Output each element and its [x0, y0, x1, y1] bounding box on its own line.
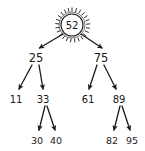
edge-52-25 — [40, 34, 64, 48]
edge-89-95 — [122, 106, 130, 130]
binary-search-tree-diagram: 52 25 75 11 33 61 89 30 40 82 95 — [0, 0, 145, 151]
node-label-11: 11 — [10, 94, 23, 105]
edge-33-30 — [39, 106, 45, 130]
edge-33-40 — [47, 106, 55, 130]
edge-25-33 — [39, 65, 43, 89]
node-label-40: 40 — [50, 135, 62, 146]
edge-75-61 — [89, 65, 97, 89]
node-label-89: 89 — [113, 94, 126, 105]
node-label-30: 30 — [31, 135, 43, 146]
edge-52-75 — [81, 34, 102, 48]
node-label-75: 75 — [94, 53, 109, 64]
edge-25-11 — [19, 65, 32, 89]
edge-89-82 — [114, 106, 120, 130]
node-label-33: 33 — [37, 94, 50, 105]
node-label-61: 61 — [82, 94, 95, 105]
node-label-25: 25 — [29, 53, 44, 64]
node-label-82: 82 — [106, 135, 118, 146]
edge-75-89 — [104, 65, 116, 89]
node-label-95: 95 — [126, 135, 138, 146]
node-label-52: 52 — [66, 20, 79, 31]
